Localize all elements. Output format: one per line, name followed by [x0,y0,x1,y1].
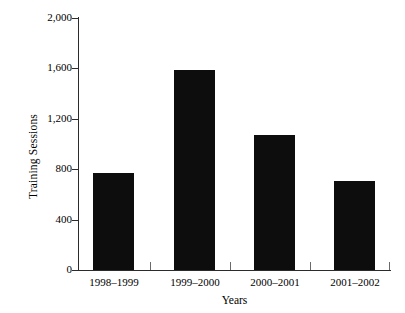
x-axis-tick-labels: 1998–1999 1999–2000 2000–2001 2001–2002 [78,275,391,291]
bar-1998-1999 [93,173,134,270]
y-tick-label-0: 0 [26,264,72,275]
x-axis-line [78,270,391,271]
bar-2000-2001 [254,135,295,270]
y-tick-label-400: 400 [26,214,72,225]
x-axis-title: Years [78,293,391,307]
y-tick-label-1200: 1,200 [26,113,72,124]
x-tick-label-2000-2001: 2000–2001 [229,275,321,289]
x-tick-label-1998-1999: 1998–1999 [68,275,160,289]
x-tick-label-2001-2002: 2001–2002 [309,275,401,289]
bar-1999-2000 [174,70,215,270]
bars-layer [78,18,390,270]
y-axis-tick-labels: 2,000 1,600 1,200 800 400 0 [26,0,72,313]
y-tick-label-800: 800 [26,163,72,174]
bar-chart: Training Sessions 2,000 1,600 1,200 800 … [0,0,405,313]
bar-2001-2002 [334,181,375,271]
y-tick-label-1600: 1,600 [26,62,72,73]
y-tick-mark-0 [72,270,78,271]
x-tick-label-1999-2000: 1999–2000 [149,275,241,289]
y-tick-label-2000: 2,000 [26,12,72,23]
